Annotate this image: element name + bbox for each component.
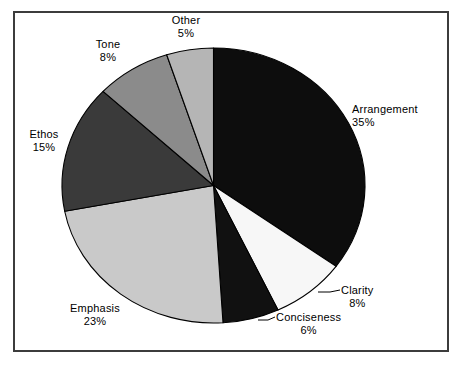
slice-label-clarity-pct: 8% [341, 297, 374, 310]
leader-line-conciseness [258, 317, 275, 320]
slice-label-ethos-pct: 15% [14, 141, 74, 154]
slice-label-ethos-name: Ethos [14, 128, 74, 141]
slice-label-tone: Tone 8% [80, 38, 136, 64]
slice-label-other-pct: 5% [155, 27, 217, 40]
leader-line-clarity [318, 290, 340, 292]
slice-label-ethos: Ethos 15% [14, 128, 74, 154]
slice-label-clarity-name: Clarity [341, 284, 374, 297]
slice-label-emphasis: Emphasis 23% [60, 302, 130, 328]
slice-label-conciseness-name: Conciseness [276, 311, 341, 324]
slice-label-emphasis-pct: 23% [60, 315, 130, 328]
slice-label-emphasis-name: Emphasis [60, 302, 130, 315]
slice-label-arrangement-pct: 35% [352, 116, 418, 129]
slice-label-other: Other 5% [155, 14, 217, 40]
slice-label-arrangement-name: Arrangement [352, 103, 418, 116]
slice-label-conciseness: Conciseness 6% [276, 311, 341, 337]
slice-label-arrangement: Arrangement 35% [352, 103, 418, 129]
pie-chart-figure: Arrangement 35% Clarity 8% Conciseness 6… [0, 0, 461, 368]
slice-label-tone-pct: 8% [80, 51, 136, 64]
slice-label-conciseness-pct: 6% [276, 324, 341, 337]
slice-label-tone-name: Tone [80, 38, 136, 51]
slice-label-clarity: Clarity 8% [341, 284, 374, 310]
pie-slice-group [62, 48, 365, 323]
slice-label-other-name: Other [155, 14, 217, 27]
